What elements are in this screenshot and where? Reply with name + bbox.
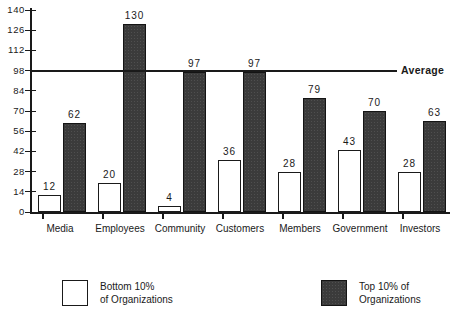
x-axis-line bbox=[30, 212, 450, 214]
average-reference-line bbox=[30, 70, 397, 73]
bar-value-label: 97 bbox=[177, 59, 212, 69]
y-axis-tick-label: 70 bbox=[1, 106, 25, 116]
y-axis-tick-label: 84 bbox=[1, 86, 25, 96]
y-axis-tick-label: 42 bbox=[1, 146, 25, 156]
chart-legend: Bottom 10% of Organizations Top 10% of O… bbox=[0, 272, 456, 326]
bar-value-label: 4 bbox=[152, 193, 187, 203]
bar-value-label: 62 bbox=[57, 110, 92, 120]
bar-customers-bottom10 bbox=[218, 160, 241, 212]
legend-item-label: Top 10% of Organizations bbox=[359, 280, 421, 306]
legend-item-label: Bottom 10% of Organizations bbox=[100, 280, 173, 306]
x-axis-tick bbox=[222, 212, 224, 219]
bar-value-label: 43 bbox=[332, 137, 367, 147]
y-axis-tick-label: 14 bbox=[1, 187, 25, 197]
bar-value-label: 79 bbox=[297, 85, 332, 95]
bar-investors-bottom10 bbox=[398, 172, 421, 212]
bar-government-bottom10 bbox=[338, 150, 361, 212]
bar-employees-bottom10 bbox=[98, 183, 121, 212]
bar-value-label: 28 bbox=[392, 159, 427, 169]
average-line-label: Average bbox=[401, 65, 444, 76]
bar-value-label: 130 bbox=[117, 11, 152, 21]
legend-label-line-1: Bottom 10% bbox=[100, 281, 154, 292]
x-axis-tick bbox=[282, 212, 284, 219]
y-axis-tick-label: 140 bbox=[1, 5, 25, 15]
legend-item-top-10: Top 10% of Organizations bbox=[321, 280, 421, 306]
x-axis-tick bbox=[342, 212, 344, 219]
x-axis-tick bbox=[102, 212, 104, 219]
bar-media-top10 bbox=[63, 123, 86, 212]
y-axis-tick-label: 0 bbox=[1, 207, 25, 217]
legend-item-bottom-10: Bottom 10% of Organizations bbox=[62, 280, 173, 306]
bar-government-top10 bbox=[363, 111, 386, 212]
x-axis-tick bbox=[402, 212, 404, 219]
bar-value-label: 28 bbox=[272, 159, 307, 169]
filled-square-swatch bbox=[321, 280, 347, 306]
legend-label-line-2: of Organizations bbox=[100, 294, 173, 305]
legend-label-line-2: Organizations bbox=[359, 294, 421, 305]
bar-customers-top10 bbox=[243, 72, 266, 212]
y-axis-tick-label: 28 bbox=[1, 167, 25, 177]
bar-media-bottom10 bbox=[38, 195, 61, 212]
plot-area: 1262201304973697287943702863 bbox=[30, 10, 450, 212]
bar-members-top10 bbox=[303, 98, 326, 212]
x-axis-tick bbox=[42, 212, 44, 219]
bar-value-label: 63 bbox=[417, 108, 452, 118]
bar-value-label: 36 bbox=[212, 147, 247, 157]
y-axis-tick-label: 126 bbox=[1, 25, 25, 35]
y-axis-labels: 014284256708498112126140 bbox=[0, 0, 25, 250]
bar-value-label: 12 bbox=[32, 182, 67, 192]
y-axis-tick-label: 112 bbox=[1, 45, 25, 55]
bar-investors-top10 bbox=[423, 121, 446, 212]
y-axis-tick-label: 98 bbox=[1, 66, 25, 76]
y-axis-tick-label: 56 bbox=[1, 126, 25, 136]
hollow-square-swatch bbox=[62, 280, 88, 306]
x-axis-category-label: Investors bbox=[384, 224, 456, 234]
bar-community-top10 bbox=[183, 72, 206, 212]
bar-members-bottom10 bbox=[278, 172, 301, 212]
bar-value-label: 70 bbox=[357, 98, 392, 108]
bar-value-label: 20 bbox=[92, 170, 127, 180]
x-axis-tick bbox=[162, 212, 164, 219]
bar-employees-top10 bbox=[123, 24, 146, 212]
legend-label-line-1: Top 10% of bbox=[359, 281, 409, 292]
bar-chart: 014284256708498112126140 126220130497369… bbox=[0, 0, 456, 250]
bar-value-label: 97 bbox=[237, 59, 272, 69]
